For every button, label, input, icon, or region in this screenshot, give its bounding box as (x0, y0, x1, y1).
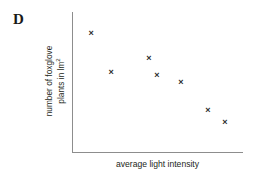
plot-area: ××××××× (73, 12, 243, 152)
scatter-plot-figure: D ××××××× number of foxglove plants in l… (0, 0, 257, 175)
data-point: × (144, 54, 153, 63)
data-point: × (87, 29, 96, 38)
y-axis-label-superscript: 2 (55, 58, 61, 61)
y-axis-label-line2: plants in lm2 (56, 16, 68, 146)
data-point: × (176, 78, 185, 87)
data-point: × (152, 71, 161, 80)
data-point: × (203, 106, 212, 115)
x-axis-label: average light intensity (72, 158, 243, 170)
panel-label: D (13, 11, 24, 27)
x-axis-line (72, 152, 243, 153)
y-axis-label: number of foxglove plants in lm2 (44, 16, 70, 146)
y-axis-label-line2-text: plants in lm (56, 62, 66, 104)
data-point: × (107, 68, 116, 77)
data-point: × (220, 118, 229, 127)
y-axis-label-line1: number of foxglove (44, 16, 56, 146)
